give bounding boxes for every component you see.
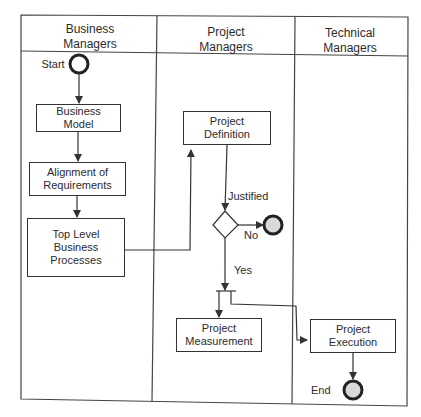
start-node [70,55,88,73]
activity-alignment-of-requirements: Alignment of Requirements [29,162,126,196]
lane-divider-1 [152,16,157,401]
lane-header-project-managers: Project Managers [176,25,276,55]
guard-yes: Yes [234,264,252,277]
activity-project-definition: Project Definition [183,111,271,145]
end-label: End [311,384,331,397]
lane-divider-2 [292,17,295,404]
flow-final-node [264,216,282,234]
lane-header-business-managers: Business Managers [40,22,140,52]
guard-justified: Justified [228,190,268,203]
activity-business-model: Business Model [36,104,121,132]
guard-no: No [244,229,258,242]
start-label: Start [38,58,68,71]
activity-project-measurement: Project Measurement [176,318,262,352]
decision-diamond [213,211,238,238]
activity-project-execution: Project Execution [310,319,396,353]
end-node [344,381,362,399]
activity-top-level-business-processes: Top Level Business Processes [27,218,125,277]
lane-header-technical-managers: Technical Managers [300,26,400,56]
